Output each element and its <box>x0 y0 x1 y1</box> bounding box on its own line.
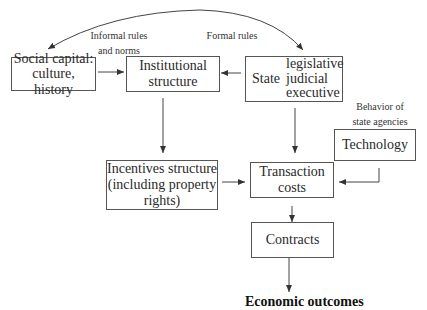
node-economic-outcomes: Economic outcomes <box>245 294 364 310</box>
node-social-capital: Social capital: culture, history <box>11 57 96 91</box>
node-contracts: Contracts <box>251 222 334 258</box>
label-behavior-state-agencies: Behavior of state agencies <box>340 99 420 129</box>
node-technology: Technology <box>334 129 416 161</box>
node-state: State legislative judicial executive <box>245 56 343 102</box>
node-incentives-structure: Incentives structure (including property… <box>106 160 218 210</box>
node-institutional-structure: Institutional structure <box>126 56 220 92</box>
arrow-technology-to-transaction <box>339 168 379 182</box>
state-label: State <box>252 71 280 87</box>
label-formal-rules: Formal rules <box>202 28 262 43</box>
node-transaction-costs: Transaction costs <box>250 162 334 198</box>
state-branches: legislative judicial executive <box>286 57 344 101</box>
